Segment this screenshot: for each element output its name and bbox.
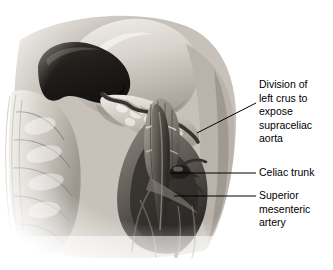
bottom-fade: [0, 236, 250, 270]
label-superior-mesenteric-artery: Superior mesenteric artery: [259, 189, 333, 230]
label-division-of-left-crus: Division of left crus to expose supracel…: [259, 78, 333, 146]
label-celiac-trunk: Celiac trunk: [259, 166, 333, 180]
